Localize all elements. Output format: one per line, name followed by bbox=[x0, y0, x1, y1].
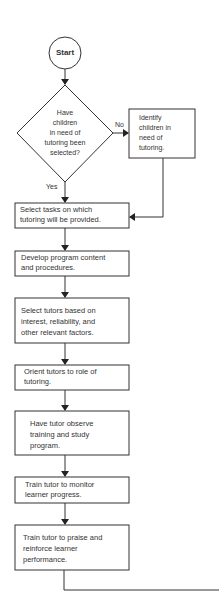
step-2-line-1: Develop program content bbox=[21, 253, 129, 263]
step-6-text: Train tutor to monitor learner progress. bbox=[25, 480, 129, 500]
step-7-line-2: reinforce learner bbox=[23, 543, 129, 554]
side-line-2: children in bbox=[139, 123, 195, 133]
side-line-4: tutoring. bbox=[139, 143, 195, 153]
decision-text: Have children in need of tutoring been s… bbox=[25, 108, 105, 158]
step-7-line-1: Train tutor to praise and bbox=[23, 532, 129, 543]
step-3-line-3: other relevant factors. bbox=[21, 327, 129, 338]
arrow-identify-return bbox=[130, 158, 163, 217]
step-5-line-3: program. bbox=[30, 440, 128, 451]
step-5-text: Have tutor observe training and study pr… bbox=[30, 418, 128, 451]
side-line-1: Identify bbox=[139, 113, 195, 123]
step-3-line-2: interest, reliability, and bbox=[21, 316, 129, 327]
yes-label: Yes bbox=[46, 183, 57, 190]
exit-connector bbox=[64, 570, 219, 590]
step-5-line-2: training and study bbox=[30, 429, 128, 440]
step-7-line-3: performance. bbox=[23, 554, 129, 565]
decision-line-1: Have bbox=[25, 108, 105, 118]
step-1-line-2: tutoring will be provided. bbox=[20, 215, 128, 225]
step-2-line-2: and procedures. bbox=[21, 263, 129, 273]
no-label: No bbox=[115, 121, 124, 128]
step-6-line-1: Train tutor to monitor bbox=[25, 480, 129, 490]
step-3-line-1: Select tutors based on bbox=[21, 305, 129, 316]
decision-line-4: tutoring been bbox=[25, 138, 105, 148]
step-1-text: Select tasks on which tutoring will be p… bbox=[20, 205, 128, 225]
step-4-line-2: tutoring. bbox=[24, 377, 128, 387]
step-1-line-1: Select tasks on which bbox=[20, 205, 128, 215]
decision-line-3: in need of bbox=[25, 128, 105, 138]
side-line-3: need of bbox=[139, 133, 195, 143]
flowchart-canvas: Start Have children in need of tutoring … bbox=[0, 0, 219, 610]
step-4-text: Orient tutors to role of tutoring. bbox=[24, 367, 128, 387]
step-6-line-2: learner progress. bbox=[25, 490, 129, 500]
identify-children-text: Identify children in need of tutoring. bbox=[139, 113, 195, 153]
step-5-line-1: Have tutor observe bbox=[30, 418, 128, 429]
start-label: Start bbox=[49, 48, 81, 58]
step-3-text: Select tutors based on interest, reliabi… bbox=[21, 305, 129, 338]
decision-line-5: selected? bbox=[25, 148, 105, 158]
decision-line-2: children bbox=[25, 118, 105, 128]
step-4-line-1: Orient tutors to role of bbox=[24, 367, 128, 377]
step-2-text: Develop program content and procedures. bbox=[21, 253, 129, 273]
step-7-text: Train tutor to praise and reinforce lear… bbox=[23, 532, 129, 565]
